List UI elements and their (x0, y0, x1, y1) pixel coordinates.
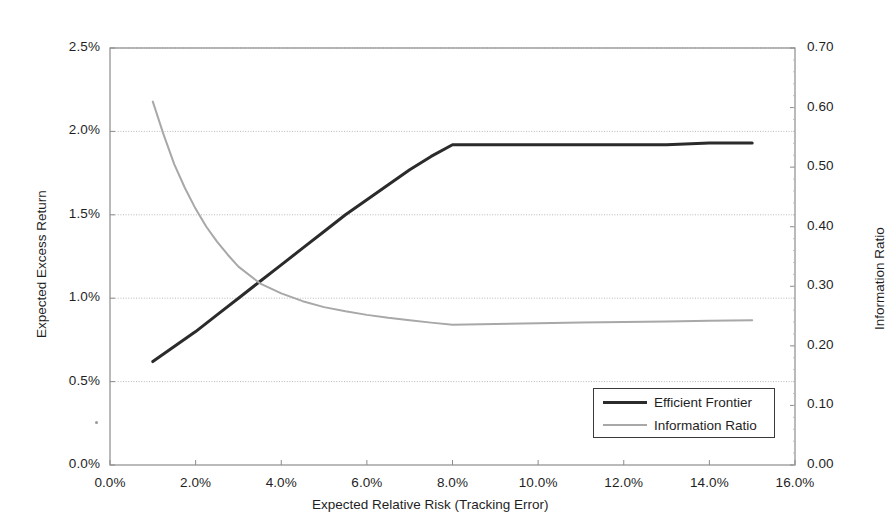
y-axis-right-tick-label: 0.40 (807, 218, 877, 233)
y-axis-left-tick-label: 2.5% (30, 39, 100, 54)
scan-artifact-speck (95, 421, 98, 424)
legend-label-information-ratio: Information Ratio (654, 418, 757, 433)
x-axis-title: Expected Relative Risk (Tracking Error) (312, 497, 549, 512)
y-axis-right-tick-label: 0.00 (807, 456, 877, 471)
y-axis-right-tick-label: 0.30 (807, 277, 877, 292)
y-axis-right-tick-label: 0.10 (807, 396, 877, 411)
y-axis-right-tick-label: 0.60 (807, 99, 877, 114)
y-axis-left-tick-label: 2.0% (30, 122, 100, 137)
chart-plot-area (0, 0, 893, 525)
legend-item-information-ratio: Information Ratio (603, 415, 757, 435)
x-axis-tick-label: 10.0% (503, 475, 573, 490)
y-axis-right-tick-label: 0.20 (807, 337, 877, 352)
y-axis-right-tick-label: 0.70 (807, 39, 877, 54)
x-axis-tick-label: 12.0% (589, 475, 659, 490)
x-axis-tick-label: 0.0% (75, 475, 145, 490)
x-axis-tick-label: 8.0% (418, 475, 488, 490)
x-axis-tick-label: 6.0% (332, 475, 402, 490)
y-axis-left-tick-label: 0.0% (30, 456, 100, 471)
legend-swatch-efficient-frontier (603, 401, 647, 404)
y-axis-right-tick-label: 0.50 (807, 158, 877, 173)
x-axis-tick-label: 4.0% (246, 475, 316, 490)
y-axis-left-title: Expected Excess Return (34, 190, 49, 338)
legend-item-efficient-frontier: Efficient Frontier (603, 392, 752, 412)
y-axis-right-title: Information Ratio (872, 227, 887, 330)
y-axis-left-tick-label: 0.5% (30, 373, 100, 388)
gridlines (110, 48, 795, 382)
x-axis-tick-label: 2.0% (161, 475, 231, 490)
chart-container: 0.0%0.5%1.0%1.5%2.0%2.5% 0.000.100.200.3… (0, 0, 893, 525)
legend-label-efficient-frontier: Efficient Frontier (654, 395, 752, 410)
legend-swatch-information-ratio (603, 424, 647, 426)
x-axis-tick-label: 16.0% (760, 475, 830, 490)
x-axis-tick-label: 14.0% (674, 475, 744, 490)
data-series (153, 102, 752, 362)
chart-legend: Efficient Frontier Information Ratio (593, 388, 775, 438)
